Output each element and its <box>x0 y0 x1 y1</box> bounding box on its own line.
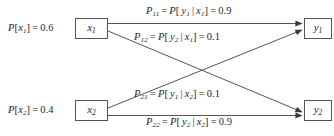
node-box-x2: x2 <box>75 100 108 121</box>
prior-x1-value: 0.6 <box>40 22 53 33</box>
prior-x2-value: 0.4 <box>40 104 53 115</box>
edge-label-p11: P11=P[y1|x1]=0.9 <box>146 6 232 18</box>
p11-sym-sub: 11 <box>153 10 160 18</box>
p12-open: [ <box>164 31 168 42</box>
p22-eq2: = <box>211 116 217 127</box>
node-box-y2: y2 <box>304 100 332 121</box>
node-y1-sub: 1 <box>319 26 323 35</box>
node-x2-label: x2 <box>87 104 96 116</box>
prior-x2-close: ] <box>27 104 31 115</box>
node-y1-label: y1 <box>314 22 323 34</box>
prior-x1-eq: = <box>32 22 38 33</box>
p11-eq2: = <box>210 5 216 16</box>
p22-bar: | <box>192 116 194 127</box>
p21-out-sub: 1 <box>175 93 179 101</box>
p11-bar: | <box>192 5 194 16</box>
node-x1-label: x1 <box>87 22 96 34</box>
p22-out-sub: 2 <box>187 121 191 129</box>
p12-sym-sub: 12 <box>141 36 148 44</box>
p11-out-sub: 1 <box>186 10 190 18</box>
p21-eq1: = <box>150 88 156 99</box>
edge-label-p21: P21=P[y1|x2]=0.1 <box>134 89 220 101</box>
p21-close: ] <box>193 88 197 99</box>
p12-eq2: = <box>199 31 205 42</box>
node-y2-sub: 2 <box>319 108 323 117</box>
p22-close: ] <box>205 116 209 127</box>
p12-eq1: = <box>150 31 156 42</box>
node-box-x1: x1 <box>75 18 108 39</box>
p22-open: [ <box>176 116 180 127</box>
p12-value: 0.1 <box>207 31 220 42</box>
p21-open: [ <box>164 88 168 99</box>
diagram-canvas: P[x1]=0.6 P[x2]=0.4 x1 x2 y1 y2 P11=P[y1… <box>0 0 334 136</box>
p21-value: 0.1 <box>207 88 220 99</box>
prior-label-x2: P[x2]=0.4 <box>8 105 54 117</box>
node-x2-sub: 2 <box>92 108 96 117</box>
p12-close: ] <box>193 31 197 42</box>
p22-value: 0.9 <box>219 116 232 127</box>
prior-x2-eq: = <box>32 104 38 115</box>
p11-eq1: = <box>161 5 167 16</box>
p12-bar: | <box>180 31 182 42</box>
edge-label-p12: P12=P[y2|x1]=0.1 <box>134 32 220 44</box>
p22-eq1: = <box>162 116 168 127</box>
edge-label-p22: P22=P[y2|x2]=0.9 <box>146 117 232 129</box>
p22-sym-sub: 22 <box>153 121 160 129</box>
p12-out-sub: 2 <box>175 36 179 44</box>
p11-close: ] <box>205 5 209 16</box>
p21-eq2: = <box>199 88 205 99</box>
prior-x1-close: ] <box>27 22 31 33</box>
node-y2-label: y2 <box>314 104 323 116</box>
p21-sym-sub: 21 <box>141 93 148 101</box>
p21-bar: | <box>180 88 182 99</box>
prior-label-x1: P[x1]=0.6 <box>8 23 54 35</box>
p11-value: 0.9 <box>218 5 231 16</box>
p11-open: [ <box>176 5 180 16</box>
node-box-y1: y1 <box>304 18 332 39</box>
node-x1-sub: 1 <box>92 26 96 35</box>
